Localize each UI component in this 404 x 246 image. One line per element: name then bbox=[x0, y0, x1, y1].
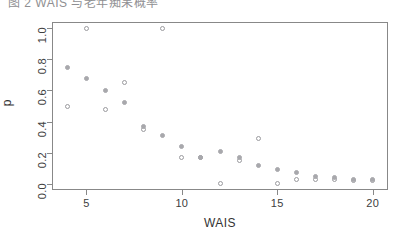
y-axis-tick-label: 0.2 bbox=[36, 152, 48, 168]
y-axis-title: p bbox=[0, 100, 14, 107]
x-axis-tick-label: 5 bbox=[71, 197, 101, 209]
x-axis-title: WAIS bbox=[52, 216, 388, 230]
caption-text: 图 2 WAIS 与老年痴呆概率 bbox=[8, 0, 159, 10]
y-axis-tick-label: 0.6 bbox=[36, 89, 48, 105]
y-axis-tick-label: 1.0 bbox=[36, 27, 48, 43]
x-axis-tick bbox=[86, 190, 87, 195]
x-axis-tick-label: 15 bbox=[262, 197, 292, 209]
x-axis-tick bbox=[277, 190, 278, 195]
x-axis-tick bbox=[182, 190, 183, 195]
x-axis-tick-label: 20 bbox=[358, 197, 388, 209]
y-axis-tick-label: 0.4 bbox=[36, 121, 48, 137]
y-axis-tick-label: 0.0 bbox=[36, 183, 48, 199]
figure-container: 图 2 WAIS 与老年痴呆概率 p WAIS 0.00.20.40.60.81… bbox=[0, 0, 404, 246]
x-axis-tick bbox=[373, 190, 374, 195]
y-axis-tick-label: 0.8 bbox=[36, 58, 48, 74]
x-axis-tick-label: 10 bbox=[167, 197, 197, 209]
top-caption-strip: 图 2 WAIS 与老年痴呆概率 bbox=[0, 0, 404, 11]
plot-frame bbox=[52, 22, 388, 190]
